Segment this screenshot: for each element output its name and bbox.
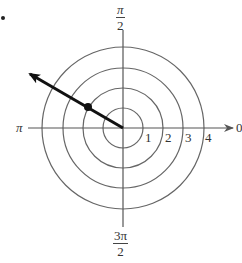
angle-label-0: 0: [236, 121, 242, 134]
angle-label-3pi-over-2: 3π 2: [113, 229, 128, 258]
angle-label-pi: π: [16, 121, 23, 134]
ring-label-2: 2: [165, 131, 172, 144]
ray-point: [84, 103, 92, 111]
fraction-numerator: 3π: [113, 229, 128, 244]
ring-label-1: 1: [145, 131, 152, 144]
ray-arrow: [30, 74, 123, 128]
ring-label-3: 3: [185, 131, 192, 144]
fraction-numerator: π: [116, 3, 125, 18]
fraction-denominator: 2: [117, 244, 124, 258]
angle-label-pi-over-2: π 2: [116, 3, 125, 32]
fraction-denominator: 2: [117, 18, 124, 32]
ring-label-4: 4: [205, 131, 212, 144]
